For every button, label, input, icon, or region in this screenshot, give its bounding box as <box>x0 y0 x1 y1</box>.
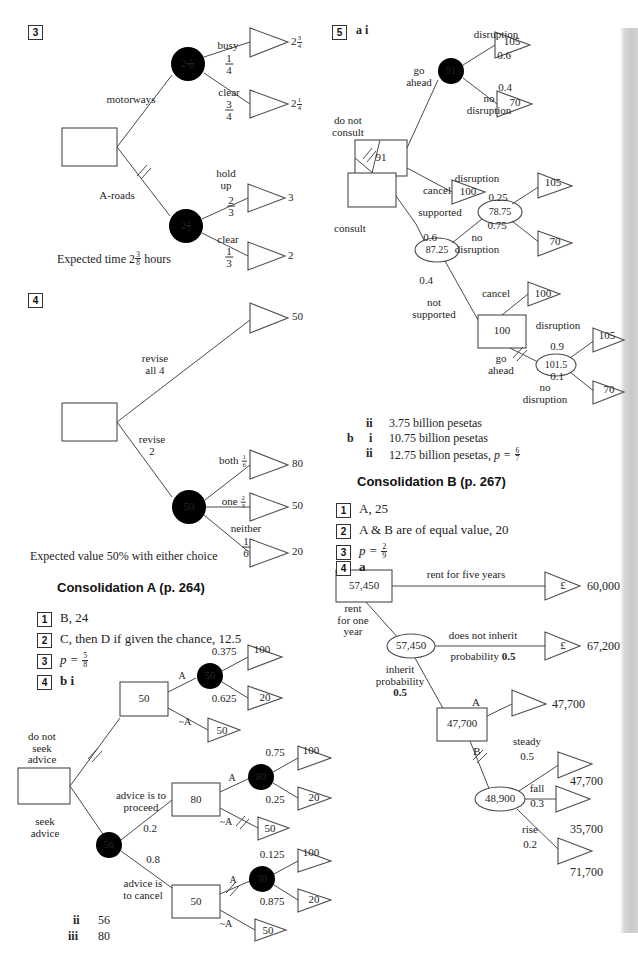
cons-a-q3-number: 3 <box>37 654 52 669</box>
cons-b-q2-number: 2 <box>336 524 351 539</box>
q3-branch-motorways: motorways <box>107 94 156 106</box>
cons-a-q4-number: 4 <box>37 675 52 690</box>
cons-a-branch-seek: seekadvice <box>31 816 60 839</box>
cons-a-node-decision-top: 50 <box>139 693 150 705</box>
cons-a-node-circle-top: 50 <box>205 671 215 682</box>
q5-outcome-label-no-disruption-3: nodisruption <box>523 382 568 405</box>
cons-a-value-top-1: 100 <box>254 644 271 656</box>
q4-prob-neither: 16 <box>241 536 250 559</box>
cons-b-value-steady: 47,700 <box>570 775 603 788</box>
q5-answer-0-text: 3.75 billion pesetas <box>389 417 482 430</box>
q5-value-cancel-2: 100 <box>535 288 552 300</box>
q5-value-cancel-1: 100 <box>460 186 477 198</box>
q5-node-circle-top: 91 <box>446 66 456 77</box>
q5-prob-no-disruption-2: 0.75 <box>487 220 506 232</box>
q5-node-circle-supported: 78.75 <box>489 207 512 218</box>
cons-b-value-rise: 71,700 <box>570 866 603 879</box>
q5-value-disruption-1: 105 <box>504 36 521 48</box>
cons-a-node-circle-proceed: 80 <box>256 772 266 783</box>
cons-a-value-top-3: 50 <box>217 725 228 737</box>
q5-value-disruption-2: 105 <box>545 177 562 189</box>
cons-b-prob-rise: 0.2 <box>523 839 537 851</box>
cons-b-currency-five-icon: £ <box>560 580 566 592</box>
cons-a-prob-top-2: 0.625 <box>212 693 237 705</box>
q5-outcome-label-disruption-2: disruption <box>455 173 500 185</box>
q5-node-chance-consult: 87.25 <box>426 245 449 256</box>
cons-a-node-chance-seek: 56 <box>104 840 114 851</box>
q3-branch-a-roads: A-roads <box>99 190 134 202</box>
q5-answer-1-marker: i <box>369 432 372 445</box>
question-number-4: 4 <box>28 293 43 308</box>
decision-tree-graphics <box>0 0 638 963</box>
cons-a-node-decision-cancel: 50 <box>191 896 202 908</box>
q5-node-decision-not-supported: 100 <box>494 325 511 337</box>
q5-branch-supported: supported <box>418 207 461 219</box>
cons-a-value-cancel-2: 20 <box>309 894 320 906</box>
cons-b-label-steady: steady <box>513 736 541 748</box>
q5-value-no-disruption-1: 70 <box>510 97 521 109</box>
q3-prob-clear-2: 13 <box>224 246 233 269</box>
q4-node-circle: 50 <box>184 501 195 513</box>
cons-b-value-rent-five: 60,000 <box>587 580 620 593</box>
q3-outcome-label-busy: busy <box>218 40 239 52</box>
q5-branch-do-not-consult: do notconsult <box>332 115 364 138</box>
cons-b-currency-not-inherit-icon: £ <box>560 640 566 652</box>
cons-a-prob-cancel-1: 0.125 <box>260 849 285 861</box>
cons-b-q1-number: 1 <box>336 503 351 518</box>
cons-b-branch-rent-one: rentfor oneyear <box>337 603 368 638</box>
q5-parts: a i <box>356 24 368 37</box>
page-edge-shadow <box>620 28 638 933</box>
q3-value-busy: 234 <box>291 35 302 50</box>
cons-a-sub-value-iii: 80 <box>98 930 110 943</box>
cons-b-prob-steady: 0.5 <box>520 751 534 763</box>
q5-value-no-disruption-2: 70 <box>550 236 561 248</box>
q5-prob-not-supported: 0.4 <box>419 275 433 287</box>
cons-a-prob-proceed: 0.2 <box>143 823 157 835</box>
q4-conclusion: Expected value 50% with either choice <box>30 550 218 563</box>
q4-outcome-neither: neither <box>231 523 262 535</box>
cons-b-label-A: A <box>472 697 480 709</box>
q5-branch-go-ahead-2: goahead <box>488 353 514 376</box>
question-number-5: 5 <box>332 25 347 40</box>
cons-a-q4-answer: b i <box>60 673 74 689</box>
cons-a-label-A-top: A <box>178 671 185 682</box>
q5-branch-consult: consult <box>334 223 366 235</box>
q4-value-both: 80 <box>292 458 303 470</box>
q5-prob-disruption-2: 0.25 <box>488 192 507 204</box>
cons-a-value-cancel-1: 100 <box>303 847 320 859</box>
cons-a-q1-answer: B, 24 <box>60 610 88 626</box>
question-number-3: 3 <box>28 25 43 40</box>
q5-outcome-label-no-disruption-2: nodisruption <box>455 232 500 255</box>
q4-branch-revise-2: revise2 <box>139 434 165 457</box>
cons-a-value-proceed-1: 100 <box>303 745 320 757</box>
cons-a-value-proceed-2: 20 <box>309 792 320 804</box>
cons-b-q1-answer: A, 25 <box>359 501 388 517</box>
q5-prob-supported: 0.6 <box>423 232 437 244</box>
q5-answer-2-text: 12.75 billion pesetas, p = 67 <box>389 447 520 463</box>
cons-b-q4-answer: a <box>359 559 366 575</box>
cons-b-value-A: 47,700 <box>552 698 585 711</box>
q5-branch-cancel-1: cancel <box>423 185 451 197</box>
q5-branch-go-ahead: goahead <box>406 65 432 88</box>
q4-outcome-one: one 23 <box>222 495 246 510</box>
cons-a-q1-number: 1 <box>37 612 52 627</box>
q5-answer-1-text: 10.75 billion pesetas <box>389 432 488 445</box>
cons-b-label-rise: rise <box>522 824 538 836</box>
cons-b-q4-number: 4 <box>336 561 351 576</box>
cons-b-value-not-inherit: 67,200 <box>587 640 620 653</box>
q5-prob-disruption-3: 0.9 <box>550 341 564 353</box>
cons-a-q3-answer: p = 58 <box>60 652 89 669</box>
q5-prob-no-disruption-3: 0.1 <box>550 371 564 383</box>
cons-a-prob-cancel: 0.8 <box>146 854 160 866</box>
q3-node-a-roads: 223 <box>181 219 191 232</box>
cons-a-value-proceed-3: 50 <box>265 823 276 835</box>
cons-a-label-A-cancel: A <box>229 875 236 886</box>
cons-a-label-notA-cancel: ~A <box>220 919 233 930</box>
q5-outcome-label-disruption-3: disruption <box>536 320 581 332</box>
cons-b-node-circle-one: 57,450 <box>396 640 426 652</box>
cons-a-prob-top-1: 0.375 <box>212 646 237 658</box>
cons-a-branch-do-not-seek: do notseekadvice <box>28 731 57 766</box>
q3-outcome-label-hold-up: holdup <box>216 168 236 191</box>
q3-value-clear-2: 2 <box>288 250 294 262</box>
q3-prob-busy: 14 <box>224 53 233 76</box>
